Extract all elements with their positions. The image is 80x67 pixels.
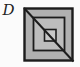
option-label: D [2, 1, 15, 19]
answer-option-figure[interactable]: D [0, 0, 80, 67]
nested-squares-diagram: D [0, 0, 80, 67]
